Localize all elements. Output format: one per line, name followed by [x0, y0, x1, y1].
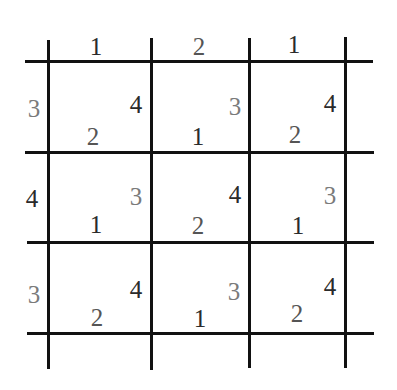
grid-line-horizontal: [25, 60, 373, 63]
cell-bottom-value: 1: [194, 306, 207, 331]
grid-line-vertical: [150, 38, 153, 370]
cell-bottom-value: 1: [292, 213, 305, 238]
row-label: 3: [28, 96, 41, 121]
cell-bottom-value: 1: [192, 124, 205, 149]
cell-right-value: 3: [324, 183, 337, 208]
cell-right-value: 4: [324, 274, 337, 299]
grid-puzzle: 1 2 1 3 4 3 4 2 3 1 4 2 3 1 4 2 3 1 4 2 …: [0, 0, 397, 390]
grid-line-vertical: [344, 37, 347, 368]
cell-right-value: 3: [229, 94, 242, 119]
grid-line-vertical: [47, 40, 50, 369]
cell-bottom-value: 2: [91, 305, 104, 330]
cell-bottom-value: 2: [291, 301, 304, 326]
grid-line-vertical: [248, 38, 251, 368]
cell-bottom-value: 2: [192, 213, 205, 238]
cell-right-value: 4: [324, 91, 337, 116]
cell-bottom-value: 2: [289, 122, 302, 147]
column-label: 1: [288, 32, 301, 57]
cell-right-value: 4: [130, 277, 143, 302]
cell-right-value: 4: [229, 182, 242, 207]
row-label: 3: [28, 282, 41, 307]
column-label: 1: [90, 34, 103, 59]
column-label: 2: [193, 34, 206, 59]
cell-right-value: 3: [228, 279, 241, 304]
cell-bottom-value: 2: [87, 124, 100, 149]
cell-right-value: 4: [130, 92, 143, 117]
row-label: 4: [26, 186, 39, 211]
grid-line-horizontal: [27, 241, 374, 244]
cell-right-value: 3: [130, 184, 143, 209]
cell-bottom-value: 1: [90, 212, 103, 237]
grid-line-horizontal: [25, 151, 374, 154]
grid-line-horizontal: [27, 332, 374, 335]
